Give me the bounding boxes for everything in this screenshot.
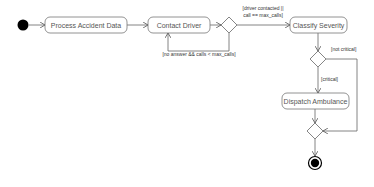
edge-retry-loop: [168, 33, 229, 51]
guard-contacted-line2: call == max_calls]: [243, 12, 283, 18]
merge-node: [307, 123, 323, 139]
action-label: Dispatch Ambulance: [284, 98, 348, 106]
activity-diagram: Process Accident Data Contact Driver Cla…: [0, 0, 374, 187]
action-process-accident-data: Process Accident Data: [45, 17, 127, 33]
guard-not-critical: [not critical]: [331, 46, 357, 52]
action-label: Classify Severity: [293, 22, 345, 30]
guard-contacted-line1: [driver contacted ||: [243, 5, 284, 11]
action-label: Process Accident Data: [51, 22, 122, 29]
guard-critical: [critical]: [321, 76, 339, 82]
initial-node: [18, 20, 29, 31]
action-label: Contact Driver: [157, 22, 202, 29]
guard-retry: [no answer && calls < max_calls]: [162, 51, 236, 57]
action-classify-severity: Classify Severity: [290, 17, 347, 33]
action-contact-driver: Contact Driver: [148, 17, 210, 33]
decision-contact: [221, 17, 237, 33]
final-node: [309, 157, 322, 170]
action-dispatch-ambulance: Dispatch Ambulance: [282, 93, 349, 109]
decision-severity: [310, 51, 326, 67]
